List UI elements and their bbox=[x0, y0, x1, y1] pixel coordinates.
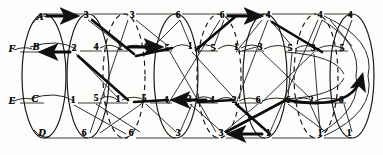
node-label-s7-r2b: 3 bbox=[311, 44, 316, 54]
node-label-s2-top: 3 bbox=[84, 11, 89, 21]
node-label-s6-bot: 1 bbox=[266, 129, 271, 139]
node-label-C: C bbox=[32, 94, 39, 105]
node-label-s3-r3b: 1 bbox=[116, 95, 121, 105]
node-label-s6-r2a: 1 bbox=[234, 43, 239, 53]
node-label-s4-r3a: 5 bbox=[142, 94, 147, 104]
cross-1-4e bbox=[270, 20, 318, 132]
node-label-s5-r3a: 2 bbox=[187, 95, 192, 105]
node-label-s3-r2a: 4 bbox=[94, 43, 99, 53]
node-label-s7-r2a: 5 bbox=[288, 44, 293, 54]
cross-5-6e bbox=[288, 52, 292, 98]
oval-stage-1 bbox=[22, 14, 66, 138]
node-label-s7-top: 4 bbox=[318, 11, 323, 21]
node-label-s5-r2a: 1 bbox=[188, 42, 193, 52]
network-graphic bbox=[0, 0, 383, 155]
node-label-s6-r3b: 6 bbox=[256, 96, 261, 106]
node-label-s7-bot: 1 bbox=[318, 129, 323, 139]
arc-F-B bbox=[14, 48, 32, 50]
cross-2-3c bbox=[190, 104, 222, 132]
bold-arrows bbox=[42, 16, 262, 134]
node-label-s7-r3b: 2 bbox=[309, 96, 314, 106]
diagram-canvas: A F B E C D 3 2 1 6 3 4 2 5 1 6 6 4 5 5 … bbox=[0, 0, 383, 155]
node-label-s5-r2b: 5 bbox=[211, 44, 216, 54]
node-label-s4-r2b: 5 bbox=[165, 44, 170, 54]
node-label-s7-r3a: 6 bbox=[286, 96, 291, 106]
node-label-s4-r2a: 4 bbox=[143, 43, 148, 53]
node-label-s5-r3b: 4 bbox=[210, 96, 215, 106]
cross-3-5b bbox=[136, 20, 168, 46]
node-label-s2-bot: 6 bbox=[82, 129, 87, 139]
node-label-s3-bot: 6 bbox=[129, 129, 134, 139]
node-label-s4-bot: 3 bbox=[176, 129, 181, 139]
stage-ovals bbox=[22, 14, 374, 138]
node-label-D: D bbox=[38, 128, 45, 139]
node-label-s3-r2b: 2 bbox=[118, 43, 123, 53]
node-label-s8-r2: 5 bbox=[340, 44, 345, 54]
node-label-s2-r2: 2 bbox=[72, 44, 77, 54]
node-label-s3-r3a: 5 bbox=[94, 94, 99, 104]
node-label-s6-top: 4 bbox=[266, 11, 271, 21]
node-label-s4-top: 6 bbox=[176, 11, 181, 21]
node-label-E: E bbox=[9, 96, 16, 107]
node-label-s5-top: 6 bbox=[220, 11, 225, 21]
node-label-s4-r3b: 4 bbox=[164, 96, 169, 106]
cross-2-1f bbox=[310, 104, 322, 130]
node-label-s3-top: 3 bbox=[130, 11, 135, 21]
node-label-A: A bbox=[37, 12, 44, 23]
arc-E-C bbox=[14, 98, 30, 101]
cross-4-1e bbox=[312, 20, 322, 46]
node-label-s8-r3: 6 bbox=[339, 96, 344, 106]
oval-stage-4 bbox=[154, 14, 198, 138]
node-label-s8-bot: 1 bbox=[347, 129, 352, 139]
cross-6-3a bbox=[90, 20, 128, 133]
cross-3-1b bbox=[180, 104, 192, 132]
rail-edges bbox=[20, 14, 352, 138]
node-label-s8-top: 4 bbox=[348, 11, 353, 21]
node-label-s2-r3: 1 bbox=[71, 96, 76, 106]
node-label-s6-r3a: 2 bbox=[232, 96, 237, 106]
node-label-s5-bot: 3 bbox=[219, 129, 224, 139]
oval-stage-8 bbox=[330, 14, 374, 138]
node-label-B: B bbox=[33, 42, 40, 53]
node-label-F: F bbox=[9, 44, 16, 55]
cross-x3 bbox=[146, 104, 176, 132]
node-label-s6-r2b: 3 bbox=[258, 43, 263, 53]
